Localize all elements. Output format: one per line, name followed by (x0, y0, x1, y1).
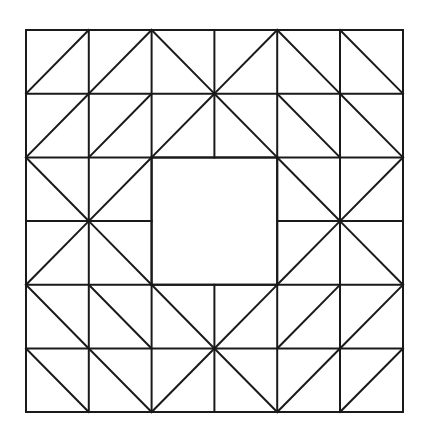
pattern-canvas (0, 0, 421, 433)
canvas-background (0, 0, 421, 433)
quilt-block-figure (0, 0, 421, 433)
